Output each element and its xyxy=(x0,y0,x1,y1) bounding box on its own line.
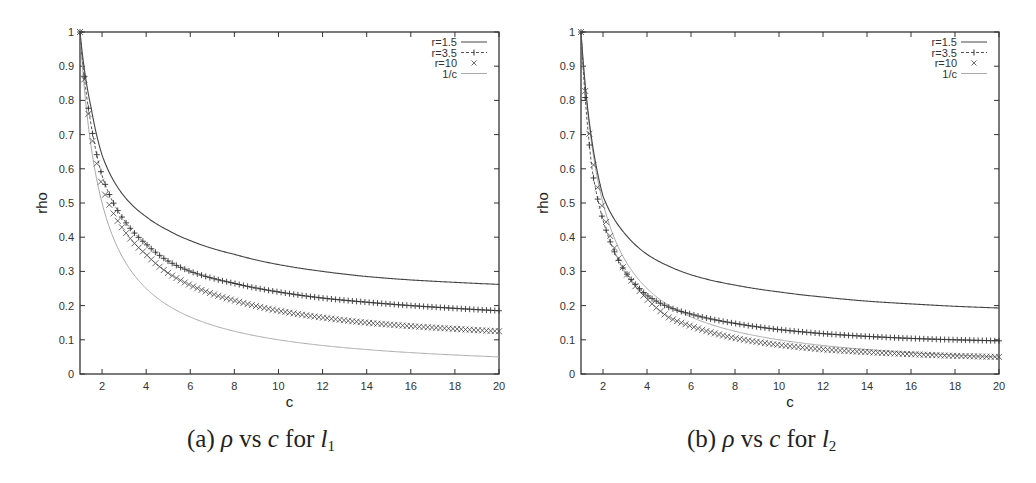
y-tick-label: 1 xyxy=(68,26,74,38)
caption-label: (a) xyxy=(187,425,215,452)
x-tick-label: 18 xyxy=(449,380,461,392)
x-axis-label: c xyxy=(286,393,294,410)
y-tick-label: 0.1 xyxy=(560,334,575,346)
plot-frame xyxy=(80,32,499,374)
caption-rho: ρ xyxy=(221,425,233,452)
y-tick-label: 0.1 xyxy=(59,334,74,346)
caption-a: (a) ρ vs c for l1 xyxy=(187,425,335,455)
y-axis-label: rho xyxy=(33,192,50,214)
caption-vs: vs xyxy=(239,425,261,452)
y-tick-label: 0.8 xyxy=(59,94,74,106)
y-tick-label: 0.7 xyxy=(59,129,74,141)
series-1-c xyxy=(581,32,999,357)
line-chart-b: 00.10.20.30.40.50.60.70.80.9124681012141… xyxy=(518,0,1036,420)
legend-label: 1/c xyxy=(442,68,457,80)
caption-c: c xyxy=(268,425,279,452)
y-tick-label: 0.4 xyxy=(59,231,74,243)
x-tick-label: 18 xyxy=(949,380,961,392)
legend-label: 1/c xyxy=(942,68,957,80)
caption-subscript: 2 xyxy=(829,438,837,454)
series-r-3-5 xyxy=(578,29,1002,344)
x-tick-label: 6 xyxy=(187,380,193,392)
x-tick-label: 2 xyxy=(99,380,105,392)
chart-panel-b: 00.10.20.30.40.50.60.70.80.9124681012141… xyxy=(518,0,1036,483)
plot-frame xyxy=(581,32,999,374)
series-r-1-5 xyxy=(80,32,499,284)
x-axis-label: c xyxy=(786,393,794,410)
x-tick-label: 12 xyxy=(316,380,328,392)
y-tick-label: 0.6 xyxy=(59,163,74,175)
y-tick-label: 1 xyxy=(569,26,575,38)
y-tick-label: 0.2 xyxy=(560,300,575,312)
y-tick-label: 0.5 xyxy=(59,197,74,209)
y-tick-label: 0.9 xyxy=(560,60,575,72)
x-tick-label: 20 xyxy=(993,380,1005,392)
y-axis-label: rho xyxy=(534,192,551,214)
caption-subscript: 1 xyxy=(327,438,335,454)
y-tick-label: 0.6 xyxy=(560,163,575,175)
x-tick-label: 6 xyxy=(688,380,694,392)
line-chart-a: 00.10.20.30.40.50.60.70.80.9124681012141… xyxy=(0,0,518,420)
caption-vs: vs xyxy=(741,425,763,452)
x-tick-label: 20 xyxy=(493,380,505,392)
caption-for: for xyxy=(285,425,314,452)
series-r-10 xyxy=(578,29,1002,360)
caption-rho: ρ xyxy=(722,425,734,452)
caption-c: c xyxy=(769,425,780,452)
legend: r=1.5r=3.5r=101/c xyxy=(932,36,987,80)
x-tick-label: 4 xyxy=(143,380,149,392)
y-tick-label: 0.3 xyxy=(560,265,575,277)
legend: r=1.5r=3.5r=101/c xyxy=(432,36,487,80)
y-tick-label: 0.7 xyxy=(560,129,575,141)
x-tick-label: 16 xyxy=(905,380,917,392)
caption-l: l xyxy=(822,425,829,452)
y-tick-label: 0 xyxy=(68,368,74,380)
x-tick-label: 14 xyxy=(861,380,873,392)
y-tick-label: 0.3 xyxy=(59,265,74,277)
x-tick-label: 8 xyxy=(732,380,738,392)
x-tick-label: 4 xyxy=(644,380,650,392)
y-tick-label: 0.8 xyxy=(560,94,575,106)
x-tick-label: 10 xyxy=(773,380,785,392)
y-tick-label: 0.4 xyxy=(560,231,575,243)
y-tick-label: 0 xyxy=(569,368,575,380)
y-tick-label: 0.9 xyxy=(59,60,74,72)
caption-for: for xyxy=(787,425,816,452)
x-tick-label: 14 xyxy=(361,380,373,392)
series-r-1-5 xyxy=(581,32,999,308)
chart-panel-a: 00.10.20.30.40.50.60.70.80.9124681012141… xyxy=(0,0,518,483)
caption-b: (b) ρ vs c for l2 xyxy=(687,425,836,455)
x-tick-label: 2 xyxy=(600,380,606,392)
series-r-3-5 xyxy=(77,29,502,314)
series-r-10 xyxy=(77,29,502,334)
x-tick-label: 8 xyxy=(231,380,237,392)
y-tick-label: 0.5 xyxy=(560,197,575,209)
caption-label: (b) xyxy=(687,425,716,452)
x-tick-label: 10 xyxy=(272,380,284,392)
x-tick-label: 16 xyxy=(405,380,417,392)
x-tick-label: 12 xyxy=(817,380,829,392)
y-tick-label: 0.2 xyxy=(59,300,74,312)
